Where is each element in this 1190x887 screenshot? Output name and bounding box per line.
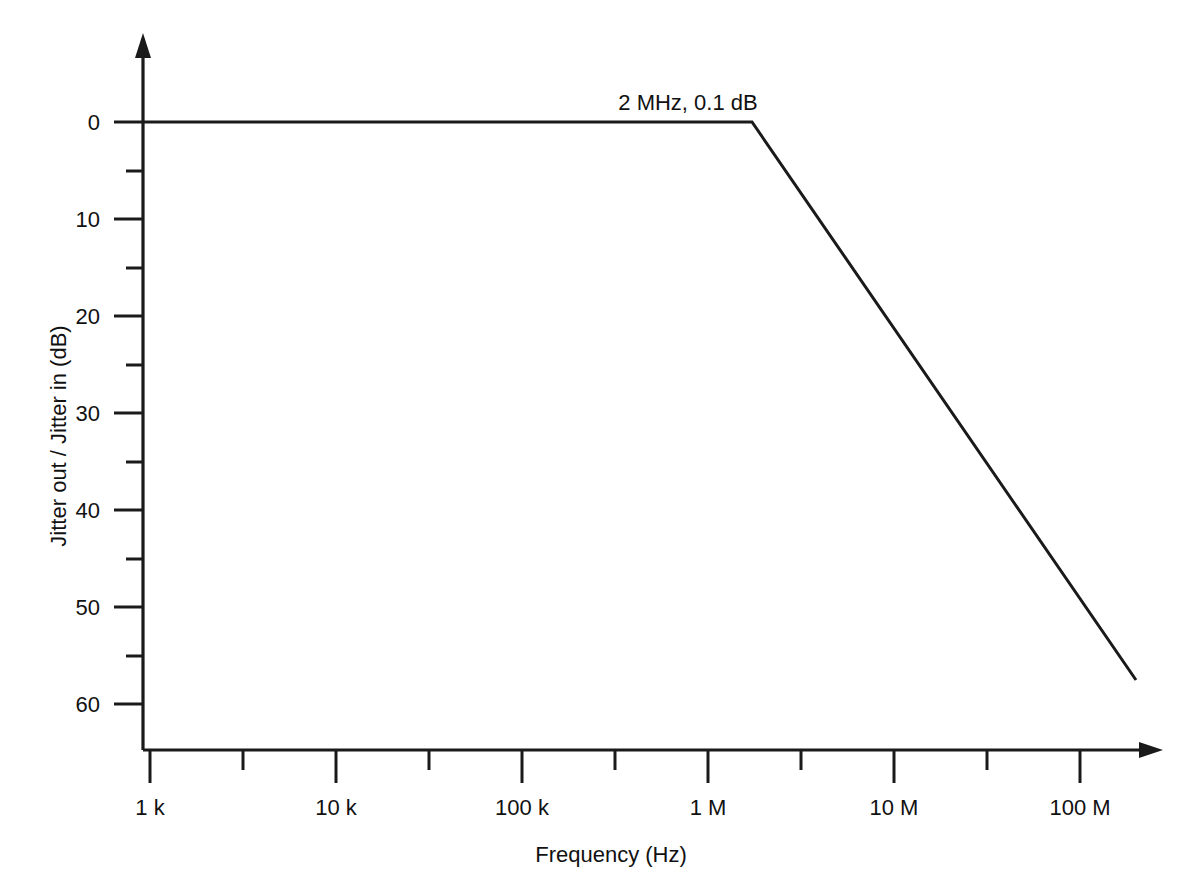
- x-tick-label: 1 M: [690, 795, 727, 820]
- breakpoint-annotation: 2 MHz, 0.1 dB: [618, 90, 757, 115]
- y-tick-label: 0: [88, 110, 100, 135]
- y-tick-label: 10: [76, 207, 100, 232]
- x-tick-label: 1 k: [135, 795, 165, 820]
- x-tick-label: 100 M: [1049, 795, 1110, 820]
- y-tick-label: 20: [76, 304, 100, 329]
- jitter-transfer-chart: 0 10 20 30 40 50 60 1 k 10 k 100 k: [0, 0, 1190, 887]
- x-tick-label: 10 k: [315, 795, 358, 820]
- y-axis-title: Jitter out / Jitter in (dB): [46, 325, 71, 546]
- chart-canvas: 0 10 20 30 40 50 60 1 k 10 k 100 k: [0, 0, 1190, 887]
- y-tick-label: 30: [76, 401, 100, 426]
- y-tick-label: 40: [76, 498, 100, 523]
- x-tick-label: 10 M: [870, 795, 919, 820]
- chart-background: [0, 0, 1190, 887]
- y-tick-label: 60: [76, 692, 100, 717]
- x-tick-label: 100 k: [495, 795, 550, 820]
- y-tick-label: 50: [76, 595, 100, 620]
- x-axis-title: Frequency (Hz): [535, 842, 687, 867]
